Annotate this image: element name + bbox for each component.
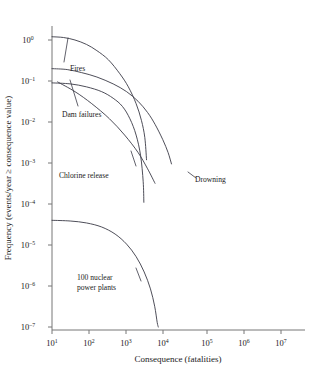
y-tick-label-10e-2: 10–2 (21, 117, 35, 128)
leader-nuclear (136, 268, 141, 281)
curve-dam-failures (52, 83, 144, 202)
y-axis-title: Frequency (events/year ≥ consequence val… (3, 96, 13, 260)
x-tick-label-10e2: 102 (83, 338, 95, 349)
y-tick-label-10e-7: 10–7 (21, 322, 35, 333)
label-dam-failures: Dam failures (62, 110, 101, 119)
curve-chlorine-release (58, 82, 155, 183)
x-tick-label-10e5: 105 (201, 338, 213, 349)
x-tick-label-10e6: 106 (238, 338, 250, 349)
y-tick-label-10e-5: 10–5 (21, 240, 35, 251)
label-nuclear-line1: 100 nuclear (77, 273, 113, 282)
leader-chlorine-release (131, 151, 136, 166)
x-tick-label-10e1: 101 (46, 338, 58, 349)
y-tick-label-10e-4: 10–4 (21, 199, 35, 210)
leader-fires (64, 38, 68, 62)
label-chlorine-release: Chlorine release (59, 171, 109, 180)
x-tick-label-10e3: 103 (120, 338, 132, 349)
fn-curve-chart: 100 10–1 10–2 10–3 10–4 10–5 10–6 10–7 1… (0, 0, 321, 370)
curve-fires (52, 37, 147, 160)
x-tick-labels: 101 102 103 104 105 106 107 (46, 338, 287, 349)
y-tick-label-10e-1: 10–1 (21, 76, 35, 87)
y-tick-label-10e-3: 10–3 (21, 158, 35, 169)
chart-canvas: 100 10–1 10–2 10–3 10–4 10–5 10–6 10–7 1… (0, 0, 321, 370)
y-tick-label-10e0: 100 (22, 35, 34, 46)
y-tick-marks (48, 40, 52, 327)
label-fires: Fires (70, 64, 85, 73)
y-tick-labels: 100 10–1 10–2 10–3 10–4 10–5 10–6 10–7 (21, 35, 35, 333)
leader-lines (64, 38, 196, 281)
x-tick-label-10e7: 107 (275, 338, 287, 349)
x-tick-label-10e4: 104 (157, 338, 169, 349)
y-tick-label-10e-6: 10–6 (21, 281, 35, 292)
label-nuclear-line2: power plants (77, 283, 116, 292)
x-axis-title: Consequence (fatalities) (134, 354, 221, 364)
x-tick-marks (52, 330, 281, 334)
label-drowning: Drowning (195, 175, 226, 184)
